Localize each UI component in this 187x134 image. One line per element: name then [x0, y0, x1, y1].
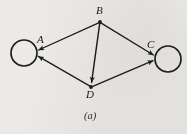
node-label-d: D	[86, 89, 94, 100]
node-label-c: C	[147, 39, 154, 50]
edge-b-to-d	[92, 23, 100, 83]
edge-b-to-c	[101, 23, 154, 55]
figure-panel: A B C D (a)	[0, 0, 187, 134]
node-label-a: A	[37, 34, 44, 45]
node-label-b: B	[96, 5, 103, 16]
edges-group	[38, 23, 153, 87]
figure-caption: (a)	[84, 110, 96, 121]
node-b-dot[interactable]	[98, 20, 102, 24]
edge-d-to-c	[92, 61, 153, 87]
node-a-circle[interactable]	[11, 40, 37, 66]
edge-d-to-a	[38, 56, 90, 86]
node-c-circle[interactable]	[155, 46, 181, 72]
edge-b-to-a	[39, 23, 100, 50]
